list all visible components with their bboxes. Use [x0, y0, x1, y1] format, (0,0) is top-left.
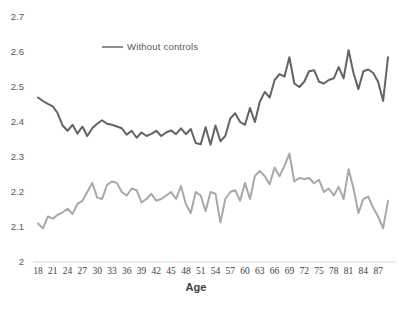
- x-tick-label: 66: [270, 266, 280, 276]
- series-without-controls-line: [38, 50, 388, 145]
- x-tick-label: 60: [240, 266, 250, 276]
- x-tick-label: 36: [122, 266, 132, 276]
- legend: Without controls: [102, 41, 198, 52]
- x-tick-label: 54: [211, 266, 221, 276]
- chart-canvas: 22.12.22.32.42.52.62.7182124273033363942…: [0, 0, 399, 311]
- x-tick-label: 30: [92, 266, 102, 276]
- x-tick-label: 39: [137, 266, 147, 276]
- x-tick-label: 48: [181, 266, 191, 276]
- x-tick-label: 27: [78, 266, 88, 276]
- legend-line-swatch: [102, 46, 123, 48]
- x-tick-label: 51: [196, 266, 206, 276]
- y-tick-label: 2.6: [11, 46, 24, 57]
- x-tick-label: 45: [166, 266, 176, 276]
- line-chart: 22.12.22.32.42.52.62.7182124273033363942…: [0, 0, 399, 311]
- y-tick-label: 2.5: [11, 81, 24, 92]
- x-tick-label: 84: [359, 266, 369, 276]
- x-tick-label: 63: [255, 266, 265, 276]
- x-tick-label: 69: [285, 266, 295, 276]
- x-axis-ticks: 1821242730333639424548515457606366697275…: [33, 266, 383, 276]
- y-axis-ticks: 22.12.22.32.42.52.62.7: [11, 11, 24, 267]
- y-tick-label: 2.2: [11, 186, 24, 197]
- legend-label: Without controls: [127, 41, 198, 52]
- y-tick-label: 2: [19, 256, 24, 267]
- x-tick-label: 42: [152, 266, 162, 276]
- x-tick-label: 81: [344, 266, 354, 276]
- y-tick-label: 2.3: [11, 151, 24, 162]
- x-tick-label: 87: [373, 266, 383, 276]
- x-axis-title: Age: [0, 281, 392, 293]
- y-tick-label: 2.4: [11, 116, 24, 127]
- x-tick-label: 57: [226, 266, 236, 276]
- y-tick-label: 2.1: [11, 221, 24, 232]
- x-tick-label: 24: [63, 266, 73, 276]
- x-tick-label: 78: [329, 266, 339, 276]
- series-lower-line: [38, 154, 388, 229]
- y-tick-label: 2.7: [11, 11, 24, 22]
- x-tick-label: 21: [48, 266, 58, 276]
- x-tick-label: 33: [107, 266, 117, 276]
- x-tick-label: 75: [314, 266, 324, 276]
- x-tick-label: 18: [33, 266, 43, 276]
- x-tick-label: 72: [299, 266, 309, 276]
